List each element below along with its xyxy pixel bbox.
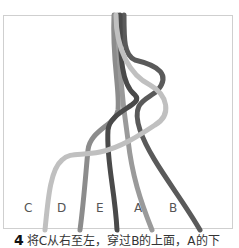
label-d: D — [57, 201, 66, 215]
label-b: B — [169, 201, 177, 215]
step-text: 将C从右至左，穿过B的上面，A的下 — [27, 234, 220, 248]
label-e: E — [96, 201, 104, 215]
step-caption: 4将C从右至左，穿过B的上面，A的下 — [14, 231, 220, 248]
label-a: A — [134, 201, 142, 215]
step-number: 4 — [14, 232, 24, 248]
label-c: C — [24, 201, 32, 215]
strand-c — [45, 15, 166, 230]
